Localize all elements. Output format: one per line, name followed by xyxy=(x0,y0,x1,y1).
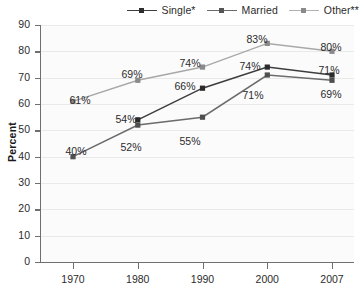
y-tick-label-90: 90 xyxy=(8,18,30,30)
y-tick-label-40: 40 xyxy=(8,150,30,162)
data-label-other-2007: 80% xyxy=(320,41,341,53)
x-tick-1990 xyxy=(203,263,204,269)
series-single xyxy=(135,65,334,123)
series-marker xyxy=(265,72,270,77)
data-label-single-2000: 74% xyxy=(239,60,260,72)
y-tick-label-80: 80 xyxy=(8,44,30,56)
y-tick-label-10: 10 xyxy=(8,229,30,241)
series-marker xyxy=(200,86,205,91)
data-label-other-1990: 74% xyxy=(179,57,200,69)
data-label-other-1980: 69% xyxy=(121,68,142,80)
legend-marker-other xyxy=(289,6,319,15)
y-tick-label-70: 70 xyxy=(8,71,30,83)
x-tick-1970 xyxy=(73,263,74,269)
legend-item-single[interactable]: Single* xyxy=(127,4,196,16)
x-tick-label-2000: 2000 xyxy=(245,273,289,285)
x-tick-2007 xyxy=(332,263,333,269)
series-other xyxy=(70,41,334,104)
series-marker xyxy=(200,115,205,120)
y-tick-label-20: 20 xyxy=(8,202,30,214)
y-tick-label-50: 50 xyxy=(8,123,30,135)
series-marker xyxy=(329,78,334,83)
legend-marker-single xyxy=(127,6,157,15)
data-label-married-2000: 71% xyxy=(242,89,263,101)
y-tick-0 xyxy=(35,262,41,263)
data-label-other-1970: 61% xyxy=(69,94,90,106)
x-tick-label-1970: 1970 xyxy=(51,273,95,285)
legend-marker-married xyxy=(207,6,237,15)
chart-page: Single* Married Other** Percent 01020304… xyxy=(0,0,363,300)
data-label-other-2000: 83% xyxy=(246,33,267,45)
y-tick-label-30: 30 xyxy=(8,176,30,188)
x-tick-label-2007: 2007 xyxy=(310,273,354,285)
y-tick-label-60: 60 xyxy=(8,97,30,109)
chart-plot-wrapper: Percent 0102030405060708090 197019801990… xyxy=(0,18,363,300)
series-married xyxy=(70,72,334,159)
legend-item-married[interactable]: Married xyxy=(207,4,278,16)
x-tick-label-1990: 1990 xyxy=(181,273,225,285)
x-tick-label-1980: 1980 xyxy=(116,273,160,285)
x-tick-2000 xyxy=(267,263,268,269)
y-tick-label-0: 0 xyxy=(8,255,30,267)
series-marker xyxy=(200,65,205,70)
legend-item-other[interactable]: Other** xyxy=(289,4,359,16)
data-label-single-1980: 54% xyxy=(115,113,136,125)
x-tick-1980 xyxy=(138,263,139,269)
series-marker xyxy=(265,65,270,70)
legend-label-single: Single* xyxy=(162,4,196,16)
data-label-single-1990: 66% xyxy=(174,80,195,92)
series-line xyxy=(73,43,332,101)
chart-legend: Single* Married Other** xyxy=(0,0,363,20)
legend-label-married: Married xyxy=(242,4,278,16)
data-label-married-1970: 40% xyxy=(65,145,86,157)
data-label-married-1990: 55% xyxy=(179,135,200,147)
data-label-single-2007: 71% xyxy=(318,64,339,76)
data-label-married-1980: 52% xyxy=(120,141,141,153)
x-axis-line xyxy=(40,262,354,263)
y-axis-title: Percent xyxy=(6,112,18,172)
data-label-married-2007: 69% xyxy=(320,88,341,100)
legend-label-other: Other** xyxy=(324,4,359,16)
